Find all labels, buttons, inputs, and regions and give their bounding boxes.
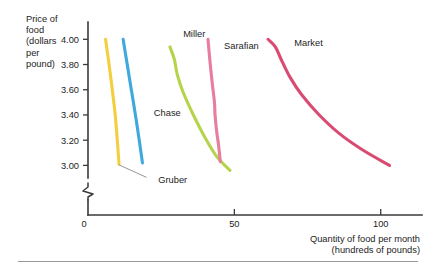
curve-label-market: Market (294, 38, 323, 48)
y-axis-title-line: (dollars (26, 36, 57, 46)
demand-curves (106, 39, 390, 170)
demand-curves-chart: 3.003.203.403.603.804.00501000 GruberCha… (0, 0, 436, 278)
y-tick-label: 4.00 (61, 35, 79, 45)
y-tick-label: 3.80 (61, 60, 79, 70)
x-tick-label: 100 (373, 219, 389, 229)
curve-label-miller: Miller (183, 29, 205, 39)
curve-label-chase: Chase (154, 108, 181, 118)
curve-market (268, 39, 389, 165)
curve-gruber (106, 39, 119, 164)
curve-label-gruber: Gruber (158, 175, 187, 185)
chart-figure: 3.003.203.403.603.804.00501000 GruberCha… (0, 0, 436, 278)
curve-label-sarafian: Sarafian (224, 41, 259, 51)
curve-chase (123, 39, 142, 163)
leader-line-gruber (119, 165, 147, 178)
origin-label: 0 (81, 219, 86, 229)
y-tick-label: 3.00 (61, 161, 79, 171)
y-axis-title-line: pound) (26, 59, 55, 69)
bottom-divider (18, 261, 418, 262)
y-axis-title-line: per (26, 48, 39, 58)
x-axis-title-line2: (hundreds of pounds) (332, 245, 420, 255)
y-tick-label: 3.40 (61, 110, 79, 120)
y-axis-break-mark (83, 183, 93, 200)
y-axis-title-line: food (26, 25, 44, 35)
y-tick-label: 3.60 (61, 85, 79, 95)
y-tick-label: 3.20 (61, 136, 79, 146)
x-tick-label: 50 (229, 219, 239, 229)
y-axis-title-line: Price of (26, 14, 58, 24)
x-axis-title: Quantity of food per month (310, 234, 420, 244)
